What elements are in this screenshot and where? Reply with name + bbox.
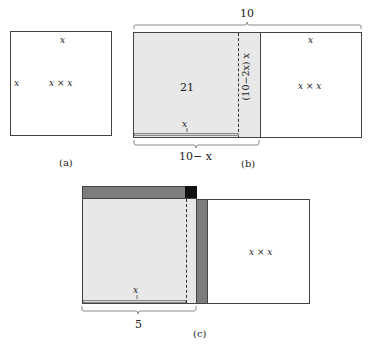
panel-c-left-square <box>82 198 197 304</box>
panel-a-left-label: x <box>14 79 19 88</box>
panel-c-bottom-brace <box>81 306 201 316</box>
panel-c-bottom-brace-label: 5 <box>135 319 142 330</box>
panel-b-bottom-strip <box>134 133 239 136</box>
panel-b-area-label: 21 <box>180 82 194 93</box>
panel-b-dashed-line <box>238 33 239 137</box>
panel-c-bottom-inner-label: x <box>133 286 138 295</box>
panel-c-inner-tick <box>135 295 139 300</box>
panel-c-bottom-strip <box>83 300 186 303</box>
panel-a-caption: (a) <box>59 158 73 168</box>
panel-b-bottom-brace-label: 10− x <box>179 151 212 162</box>
panel-b-inner-tick <box>185 128 189 133</box>
panel-a-top-label: x <box>60 36 65 45</box>
panel-b-caption: (b) <box>241 159 255 169</box>
panel-c-dashed-line <box>186 199 187 303</box>
panel-b-right-top-label: x <box>308 36 313 45</box>
panel-b-shaded-divider <box>260 32 261 138</box>
panel-b-top-brace-label: 10 <box>240 8 254 19</box>
panel-b-strip-label: (10−2x) x <box>241 53 251 100</box>
panel-c-right-center-label: x × x <box>249 248 272 257</box>
panel-c-caption: (c) <box>193 329 206 339</box>
panel-a-center-label: x × x <box>49 79 72 88</box>
panel-b-top-brace <box>133 20 363 30</box>
panel-b-right-center-label: x × x <box>298 82 321 91</box>
panel-b-bottom-brace <box>133 140 263 150</box>
